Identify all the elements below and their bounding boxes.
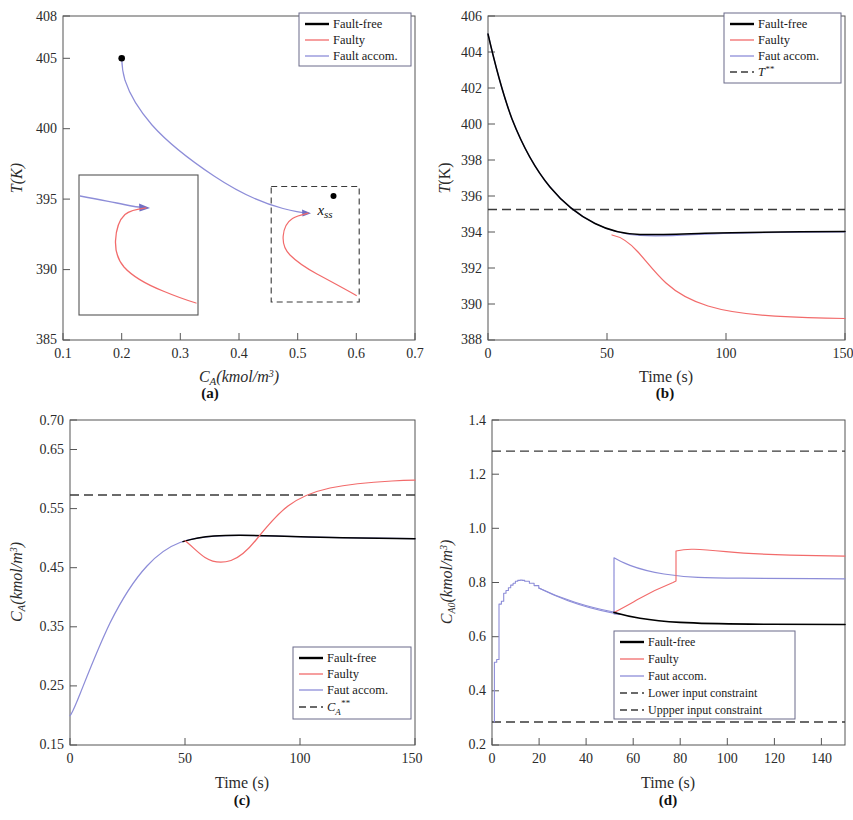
legend-label-c-2: Faut accom. <box>327 683 388 697</box>
ytick-b-406: 406 <box>461 9 482 24</box>
ytick-c-065: 0.65 <box>40 442 65 457</box>
y-axis-title-b: T(K) <box>436 162 454 193</box>
ytick-b-400: 400 <box>461 117 482 132</box>
xtick-d-1: 20 <box>532 751 546 766</box>
ytick-d-14: 1.4 <box>469 413 487 428</box>
x-axis-title-c: Time (s) <box>215 774 269 792</box>
ytick-b-390: 390 <box>461 297 482 312</box>
xtick-a-6: 0.7 <box>406 346 424 361</box>
legend-label-c-0: Fault-free <box>327 651 377 665</box>
ytick-b-388: 388 <box>461 332 482 347</box>
legend-label-d-3: Lower input constraint <box>648 686 758 700</box>
figure-root: 408 405 400 395 390 385 0.1 0.2 0.3 <box>0 0 853 820</box>
ytick-d-02: 0.2 <box>469 737 487 752</box>
panel-c: 0.70 0.65 0.55 0.45 0.35 0.25 0.15 0 50 … <box>0 400 430 820</box>
x-axis-title-b: Time (s) <box>639 368 693 386</box>
initial-point-marker-a <box>118 55 125 62</box>
legend-label-a-0: Fault-free <box>333 17 383 31</box>
panel-d: 1.4 1.2 1.0 0.8 0.6 0.4 0.2 0 20 40 60 8… <box>430 400 853 820</box>
legend-b[interactable]: Fault-free Faulty Faut accom. T** <box>724 13 841 83</box>
ytick-a-408: 408 <box>36 9 57 24</box>
legend-label-b-2: Faut accom. <box>758 49 819 63</box>
ytick-c-045: 0.45 <box>40 560 65 575</box>
ytick-c-015: 0.15 <box>40 737 65 752</box>
legend-label-d-2: Faut accom. <box>648 669 707 683</box>
xtick-a-3: 0.4 <box>230 346 248 361</box>
ytick-d-04: 0.4 <box>469 683 487 698</box>
xtick-b-3: 150 <box>833 346 853 361</box>
ytick-a-405: 405 <box>36 51 57 66</box>
ytick-b-396: 396 <box>461 189 482 204</box>
legend-label-d-1: Faulty <box>648 652 679 666</box>
x-axis-title-d: Time (s) <box>641 774 695 792</box>
legend-label-b-0: Fault-free <box>758 17 808 31</box>
y-axis-title-c: CA(kmol/m3) <box>8 542 27 622</box>
xtick-a-2: 0.3 <box>172 346 190 361</box>
xtick-a-0: 0.1 <box>54 346 72 361</box>
xtick-c-0: 0 <box>67 751 74 766</box>
panel-b: 406 404 402 400 398 396 394 392 390 388 … <box>430 0 853 400</box>
legend-c[interactable]: Fault-free Faulty Faut accom. CA** <box>293 647 411 719</box>
panel-c-svg: 0.70 0.65 0.55 0.45 0.35 0.25 0.15 0 50 … <box>0 400 430 820</box>
xtick-c-2: 100 <box>290 751 311 766</box>
ytick-b-394: 394 <box>461 225 482 240</box>
ytick-b-402: 402 <box>461 81 482 96</box>
xtick-b-1: 50 <box>600 346 614 361</box>
legend-d[interactable]: Fault-free Faulty Faut accom. Lower inpu… <box>614 631 795 719</box>
xtick-d-5: 100 <box>717 751 738 766</box>
xtick-d-7: 140 <box>811 751 832 766</box>
xtick-a-5: 0.6 <box>348 346 366 361</box>
ytick-d-12: 1.2 <box>469 467 487 482</box>
panel-b-svg: 406 404 402 400 398 396 394 392 390 388 … <box>430 0 853 400</box>
xtick-d-6: 120 <box>764 751 785 766</box>
xtick-d-2: 40 <box>579 751 593 766</box>
legend-label-c-1: Faulty <box>327 667 360 681</box>
ytick-c-055: 0.55 <box>40 501 65 516</box>
xtick-d-4: 80 <box>673 751 687 766</box>
ytick-c-025: 0.25 <box>40 678 65 693</box>
xtick-c-3: 150 <box>402 751 423 766</box>
legend-label-a-1: Faulty <box>333 33 366 47</box>
xtick-c-1: 50 <box>178 751 192 766</box>
panel-d-svg: 1.4 1.2 1.0 0.8 0.6 0.4 0.2 0 20 40 60 8… <box>430 400 853 820</box>
legend-label-b-1: Faulty <box>758 33 791 47</box>
xtick-d-0: 0 <box>489 751 496 766</box>
ytick-d-06: 0.6 <box>469 629 487 644</box>
ytick-c-035: 0.35 <box>40 619 65 634</box>
xtick-d-3: 60 <box>626 751 640 766</box>
ytick-a-395: 395 <box>36 192 57 207</box>
ytick-b-398: 398 <box>461 153 482 168</box>
xtick-b-2: 100 <box>716 346 737 361</box>
y-axis-title-d: CA0(kmol/m3) <box>438 540 457 625</box>
caption-c: (c) <box>202 792 282 809</box>
panel-a-svg: 408 405 400 395 390 385 0.1 0.2 0.3 <box>0 0 430 400</box>
xtick-b-0: 0 <box>485 346 492 361</box>
ytick-b-404: 404 <box>461 45 482 60</box>
legend-a[interactable]: Fault-free Faulty Fault accom. <box>299 13 411 66</box>
ytick-a-385: 385 <box>36 332 57 347</box>
xtick-a-1: 0.2 <box>113 346 131 361</box>
ytick-b-392: 392 <box>461 261 482 276</box>
ytick-a-400: 400 <box>36 121 57 136</box>
legend-label-a-2: Fault accom. <box>333 49 398 63</box>
ytick-d-08: 0.8 <box>469 575 487 590</box>
inset-box-a <box>79 175 198 315</box>
legend-label-d-4: Uppper input constraint <box>648 703 763 717</box>
ytick-a-390: 390 <box>36 262 57 277</box>
xss-point-marker-a <box>331 193 337 199</box>
y-axis-title-a: T(K) <box>8 163 26 193</box>
ytick-c-070: 0.70 <box>40 413 65 428</box>
panel-a: 408 405 400 395 390 385 0.1 0.2 0.3 <box>0 0 430 400</box>
ytick-d-10: 1.0 <box>469 521 487 536</box>
legend-label-d-0: Fault-free <box>648 635 695 649</box>
xtick-a-4: 0.5 <box>289 346 307 361</box>
caption-d: (d) <box>628 792 708 809</box>
